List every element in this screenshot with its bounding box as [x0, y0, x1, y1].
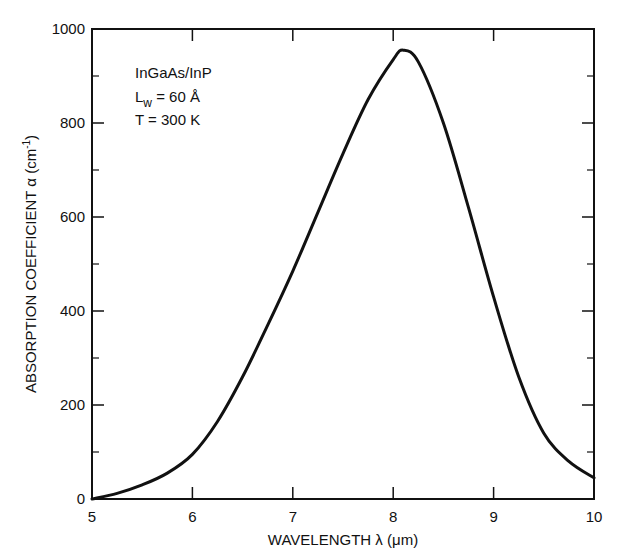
- annotation-well-width: Lw = 60 Å: [135, 88, 200, 110]
- x-tick-label: 5: [88, 508, 96, 525]
- annotation-temperature: T = 300 K: [135, 111, 200, 128]
- y-tick-label: 1000: [52, 20, 85, 37]
- y-tick-label: 800: [60, 114, 85, 131]
- x-axis-tick-labels: 5678910: [88, 508, 603, 525]
- x-axis-title: WAVELENGTH λ (μm): [268, 531, 418, 548]
- y-tick-label: 0: [77, 490, 85, 507]
- annotation-material: InGaAs/InP: [135, 64, 212, 81]
- absorption-chart: 5678910 02004006008001000 InGaAs/InP Lw …: [0, 0, 617, 557]
- x-tick-label: 7: [289, 508, 297, 525]
- x-axis-ticks: [192, 29, 493, 499]
- x-tick-label: 10: [586, 508, 603, 525]
- x-tick-label: 9: [489, 508, 497, 525]
- x-tick-label: 6: [188, 508, 196, 525]
- y-tick-label: 200: [60, 396, 85, 413]
- y-axis-title: ABSORPTION COEFFICIENT α (cm-1): [21, 135, 39, 393]
- y-axis-tick-labels: 02004006008001000: [52, 20, 85, 507]
- y-tick-label: 400: [60, 302, 85, 319]
- x-tick-label: 8: [389, 508, 397, 525]
- annotation-block: InGaAs/InP Lw = 60 Å T = 300 K: [135, 64, 212, 128]
- y-tick-label: 600: [60, 208, 85, 225]
- y-axis-ticks: [92, 76, 594, 452]
